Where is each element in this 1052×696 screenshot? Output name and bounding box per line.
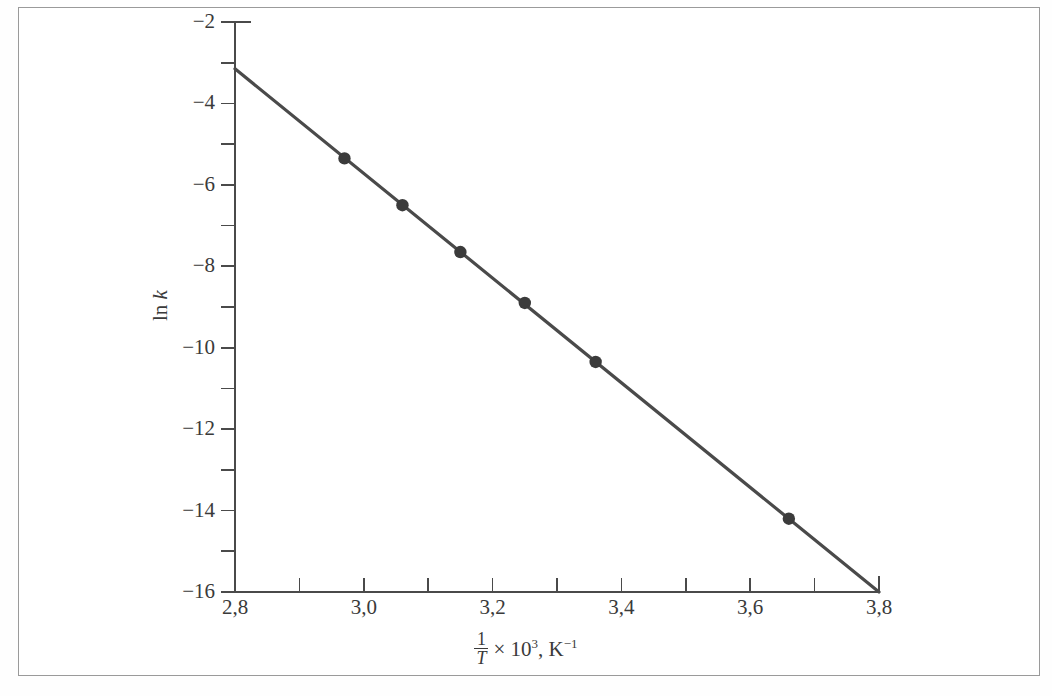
data-point [783,513,795,525]
data-point [454,246,466,258]
one-over-T-fraction: 1 T [474,630,488,668]
y-tick-label: −4 [193,90,215,115]
fit-line [235,69,879,592]
x-tick-label: 3,2 [453,595,533,620]
x-axis-title: 1 T × 103, K−1 [0,631,1052,669]
y-axis-title-symbol: k [148,290,172,299]
plot-canvas [0,0,1052,696]
x-tick-label: 3,0 [324,595,404,620]
y-tick-label: −14 [182,498,215,523]
data-point [519,297,531,309]
y-tick-label: −12 [182,416,215,441]
y-tick-label: −2 [193,9,215,34]
y-tick-label: −10 [182,335,215,360]
arrhenius-plot-figure: −2−4−6−8−10−12−14−16 2,83,03,23,43,63,8 … [0,0,1052,696]
fraction-numerator: 1 [474,630,488,648]
data-point [396,199,408,211]
x-tick-label: 3,4 [581,595,661,620]
axis-spines [235,22,879,592]
y-axis-ticks [221,22,235,592]
x-tick-label: 2,8 [195,595,275,620]
data-point [338,152,350,164]
y-tick-label: −6 [193,172,215,197]
x-tick-label: 3,8 [839,595,919,620]
x-axis-title-rest: × 103, K−1 [493,637,577,662]
fraction-denominator: T [474,648,488,667]
y-axis-title-prefix: ln [148,299,172,321]
regression-line [235,69,879,592]
x-axis-multiplier: × 10 [493,637,531,661]
data-point [589,356,601,368]
y-axis-title: ln k [148,266,173,346]
x-axis-ticks [299,578,814,592]
y-tick-label: −8 [193,253,215,278]
x-axis-units-exponent: −1 [564,636,578,651]
x-axis-units: , K [538,637,564,661]
x-tick-label: 3,6 [710,595,790,620]
